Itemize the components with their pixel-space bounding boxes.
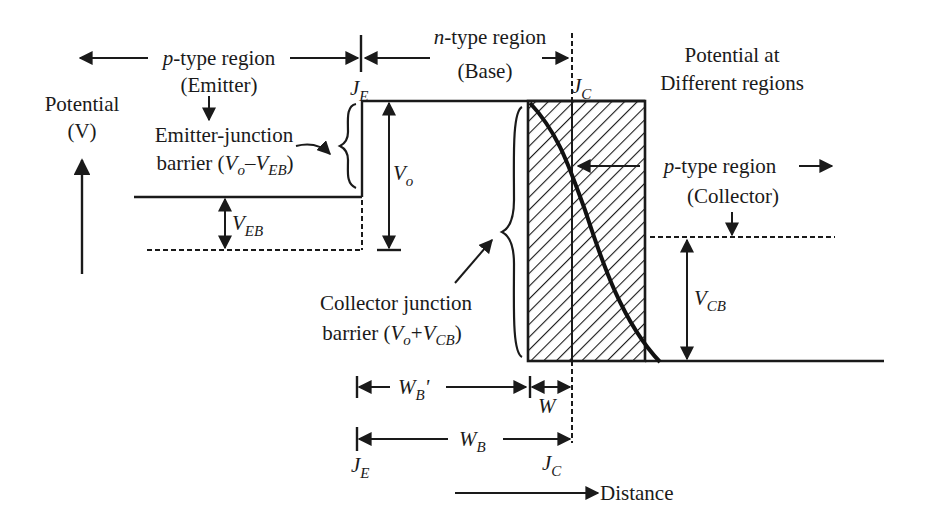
depletion-region-hatched (528, 101, 645, 361)
y-axis-label-line1: Potential (45, 92, 120, 116)
x-axis-label: Distance (600, 481, 673, 505)
vcb-label: VCB (694, 286, 726, 314)
collector-region-label: p-type region (662, 154, 777, 178)
veb-label: VEB (232, 211, 263, 239)
collector-region-name: (Collector) (687, 184, 779, 208)
emitter-barrier-line1: Emitter-junction (155, 123, 294, 147)
emitter-barrier-brace (340, 104, 356, 188)
emitter-barrier-pointer (296, 144, 330, 154)
base-region-label: n-type region (434, 25, 547, 49)
jc-label-bottom: JC (542, 451, 562, 479)
diagram-title-line2: Different regions (660, 71, 804, 95)
emitter-region-label: p-type region (161, 46, 276, 70)
collector-barrier-line1: Collector junction (320, 291, 473, 315)
y-axis-label-line2: (V) (67, 119, 96, 143)
w-label: W (538, 394, 558, 418)
diagram-title-line1: Potential at (684, 43, 779, 67)
collector-barrier-brace (502, 107, 522, 357)
jc-label-top: JC (572, 74, 592, 102)
je-label-bottom: JE (351, 453, 370, 481)
wb-label: WB (459, 427, 486, 455)
vo-label: Vo (393, 161, 414, 189)
bjt-potential-diagram: p-type region (Emitter) n-type region (B… (0, 0, 927, 521)
collector-barrier-pointer (455, 240, 492, 283)
wbprime-label: WB' (398, 375, 430, 403)
base-region-name: (Base) (458, 59, 513, 83)
emitter-region-name: (Emitter) (181, 73, 258, 97)
collector-barrier-line2: barrier (Vo+VCB) (322, 321, 461, 348)
emitter-barrier-line2: barrier (Vo–VEB) (156, 151, 293, 178)
